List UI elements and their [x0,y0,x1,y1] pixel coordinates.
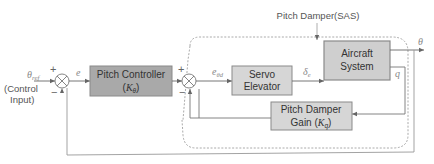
pitch-rate-label: q [395,68,400,79]
svg-text:System: System [340,61,373,72]
svg-text:Elevator: Elevator [244,81,281,92]
svg-text:(Kθ): (Kθ) [123,82,140,94]
svg-text:Servo: Servo [249,69,276,80]
outer-sum-minus: − [51,86,57,98]
error-signal-label: e [76,67,81,78]
aircraft-system-block: Aircraft System [324,41,390,80]
inner-sum-minus: − [179,86,185,98]
sas-group-label: Pitch Damper(SAS) [277,10,360,21]
inner-sum-plus: + [178,63,184,75]
theta-feedback-arrowhead [63,89,67,100]
outer-sum-plus: + [50,63,56,75]
inner-error-label: eθd [212,66,224,78]
svg-text:Pitch Controller: Pitch Controller [97,69,166,80]
servo-elevator-block: Servo Elevator [232,66,292,95]
pitch-damper-gain-block: Pitch Damper Gain (Kq) [271,102,352,130]
elevator-deflection-label: δe [303,66,311,78]
theta-output-label: θ [418,36,423,47]
input-description-line1: (Control [4,83,38,94]
theta-feedback-arrow [60,88,64,93]
input-description-line2: Input) [10,94,34,105]
svg-text:Aircraft: Aircraft [341,48,373,59]
pitch-controller-block: Pitch Controller (Kθ) [90,66,172,96]
svg-text:Pitch Damper: Pitch Damper [281,104,342,115]
block-diagram: Pitch Damper(SAS) θref (Control Input) +… [0,0,434,164]
input-symbol: θref [27,69,40,82]
